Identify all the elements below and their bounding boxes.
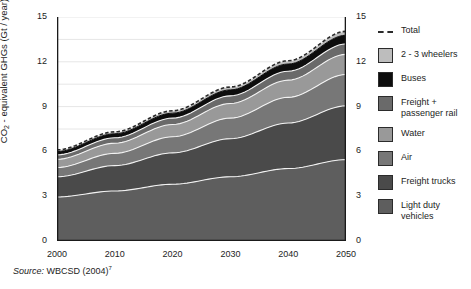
legend-item[interactable]: Freight + passenger rail [378, 96, 471, 118]
y-axis-tick-label-right: 3 [356, 191, 380, 200]
legend-item-label: Buses [401, 72, 426, 84]
x-axis-tick-label: 2020 [153, 250, 193, 259]
legend-color-swatch [378, 151, 393, 166]
y-axis-tick-label-left: 3 [23, 191, 47, 200]
legend-item-label: Freight + passenger rail [401, 96, 471, 118]
legend-item[interactable]: Total [378, 24, 471, 39]
legend-color-swatch [378, 175, 393, 190]
legend-item-label: Total [401, 24, 420, 36]
legend-color-swatch [378, 96, 393, 111]
legend-item[interactable]: Water [378, 127, 471, 142]
legend-item-label: Freight trucks [401, 175, 456, 187]
y-axis-tick-label-left: 12 [23, 57, 47, 66]
legend-item-label: Air [401, 151, 412, 163]
legend-item[interactable]: Air [378, 151, 471, 166]
legend-item[interactable]: Freight trucks [378, 175, 471, 190]
y-axis-tick-label-right: 9 [356, 102, 380, 111]
legend-dashed-line-icon [378, 24, 393, 39]
stacked-area-chart [57, 17, 346, 241]
y-axis-tick-label-left: 6 [23, 146, 47, 155]
source-text: WBCSD (2004) [47, 266, 109, 276]
y-axis-tick-label-left: 9 [23, 102, 47, 111]
y-axis-tick-label-right: 6 [356, 146, 380, 155]
y-axis-title: CO2 - equivalent GHGs (Gt / year) [0, 0, 9, 146]
y-axis-tick-label-right: 0 [356, 236, 380, 245]
y-axis-tick-label-left: 0 [23, 236, 47, 245]
legend-item-label: Water [401, 127, 425, 139]
legend-item[interactable]: 2 - 3 wheelers [378, 48, 471, 63]
source-note: Source: WBCSD (2004)7 [13, 265, 112, 276]
legend-item-label: 2 - 3 wheelers [401, 48, 458, 60]
y-axis-title-subscript: 2 [3, 125, 10, 129]
y-axis-title-suffix: - equivalent GHGs (Gt / year) [0, 0, 9, 125]
y-axis-tick-label-right: 12 [356, 57, 380, 66]
legend-color-swatch [378, 72, 393, 87]
chart-legend: Total2 - 3 wheelersBusesFreight + passen… [378, 24, 471, 230]
y-axis-tick-label-right: 15 [356, 12, 380, 21]
x-axis-tick-label: 2040 [268, 250, 308, 259]
x-axis-tick-label: 2050 [326, 250, 366, 259]
figure-transport-ghg-projection: CO2 - equivalent GHGs (Gt / year) 003366… [0, 0, 471, 289]
plot-area [57, 17, 346, 241]
legend-item[interactable]: Buses [378, 72, 471, 87]
legend-color-swatch [378, 127, 393, 142]
legend-color-swatch [378, 48, 393, 63]
legend-color-swatch [378, 199, 393, 214]
x-axis-tick-label: 2030 [210, 250, 250, 259]
y-axis-tick-label-left: 15 [23, 12, 47, 21]
legend-item[interactable]: Light duty vehicles [378, 199, 471, 221]
legend-item-label: Light duty vehicles [401, 199, 471, 221]
y-axis-title-prefix: CO [0, 129, 9, 143]
source-footnote-marker: 7 [109, 265, 112, 271]
x-axis-tick-label: 2000 [37, 250, 77, 259]
source-prefix: Source: [13, 266, 44, 276]
x-axis-tick-label: 2010 [95, 250, 135, 259]
